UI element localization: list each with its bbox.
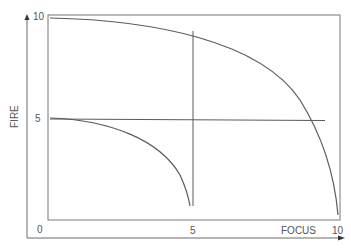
- horizontal-line-fire-5: [50, 119, 325, 121]
- inner-frontier-curve: [50, 118, 190, 206]
- y-axis-title: FIRE: [9, 105, 20, 128]
- x-axis-title: FOCUS: [281, 225, 316, 236]
- x-axis-arrow-icon: [338, 236, 345, 241]
- x-tick-5: 5: [190, 225, 196, 236]
- x-tick-10: 10: [332, 225, 344, 236]
- y-axis-arrow-icon: [25, 14, 30, 20]
- y-tick-5: 5: [35, 113, 41, 124]
- origin-label: 0: [37, 224, 43, 235]
- y-tick-10: 10: [33, 11, 45, 22]
- focus-fire-diagram: 10 5 0 5 10 FOCUS FIRE: [0, 0, 351, 248]
- outer-frontier-curve: [50, 18, 338, 215]
- plot-frame: [48, 15, 340, 220]
